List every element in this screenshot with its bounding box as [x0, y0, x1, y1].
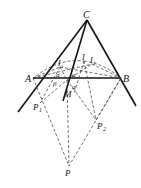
label-c: C [83, 9, 90, 20]
svg-text:1: 1 [61, 64, 64, 69]
line-ip2 [84, 61, 96, 120]
solid-lines [18, 20, 136, 112]
label-b: B [123, 73, 129, 84]
label-a: A [24, 73, 32, 84]
line-ca [18, 20, 87, 112]
angle-beta: β [52, 80, 57, 88]
label-p: P [64, 168, 71, 178]
dashed-lines [33, 61, 121, 166]
label-i2: I 2 [89, 56, 96, 66]
label-i: I [81, 53, 85, 62]
svg-text:P: P [32, 102, 39, 112]
angle-alpha-1: α [56, 71, 60, 79]
svg-text:P: P [96, 121, 103, 131]
label-i1: I 1 [57, 59, 64, 69]
label-p2: P 2 [96, 121, 106, 132]
line-bp [69, 78, 121, 166]
angle-alpha-3: α [72, 83, 76, 91]
geometry-diagram: C A B M I I 1 I 2 P 1 P 2 P α β α α [0, 0, 141, 188]
svg-text:2: 2 [103, 126, 106, 132]
line-p2b [96, 78, 121, 120]
line-i1b [60, 67, 121, 78]
svg-text:1: 1 [39, 107, 42, 113]
angle-alpha-2: α [72, 71, 76, 79]
label-p1: P 1 [32, 102, 42, 113]
label-m: M [63, 89, 72, 99]
